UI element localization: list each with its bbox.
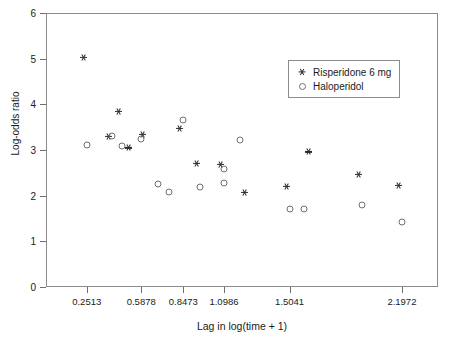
y-axis-tick-label: 6 [14, 8, 36, 19]
x-axis-tick-label: 0.8473 [169, 296, 198, 307]
y-axis-tick-label: 5 [14, 53, 36, 64]
x-axis-tick [87, 287, 88, 293]
y-axis-tick-label: 0 [14, 282, 36, 293]
plot-area [46, 13, 438, 287]
asterisk-marker-icon [295, 69, 309, 76]
y-axis-tick [40, 287, 46, 288]
chart-legend: Risperidone 6 mg Haloperidol [288, 60, 400, 98]
y-axis-title: Log-odds ratio [10, 79, 21, 169]
x-axis-tick-label: 1.5041 [275, 296, 304, 307]
x-axis-tick [290, 287, 291, 293]
legend-item-haloperidol: Haloperidol [295, 79, 391, 93]
legend-item-risperidone: Risperidone 6 mg [295, 65, 391, 79]
y-axis-tick-label: 2 [14, 190, 36, 201]
circle-marker-icon [295, 83, 309, 90]
x-axis-tick [183, 287, 184, 293]
scatter-plot-figure: Log-odds ratio Lag in log(time + 1) 0123… [0, 0, 450, 343]
legend-label-haloperidol: Haloperidol [313, 81, 364, 92]
x-axis-tick [402, 287, 403, 293]
legend-label-risperidone: Risperidone 6 mg [313, 67, 391, 78]
x-axis-tick-label: 0.2513 [72, 296, 101, 307]
x-axis-tick-label: 2.1972 [387, 296, 416, 307]
x-axis-tick [141, 287, 142, 293]
y-axis-tick-label: 1 [14, 236, 36, 247]
x-axis-tick [224, 287, 225, 293]
x-axis-tick-label: 0.5878 [127, 296, 156, 307]
x-axis-tick-label: 1.0986 [209, 296, 238, 307]
x-axis-title: Lag in log(time + 1) [46, 320, 438, 332]
